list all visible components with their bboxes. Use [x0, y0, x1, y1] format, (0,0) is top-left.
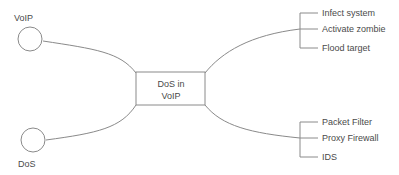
node-dos-circle[interactable] [21, 128, 45, 152]
node-center-label-line2: VoIP [161, 91, 180, 101]
leaf-label-packet-filter: Packet Filter [322, 117, 372, 127]
node-voip[interactable]: VoIP [14, 13, 42, 51]
bracket-spine-attack-steps [300, 13, 318, 48]
edge-dos-to-center [46, 105, 136, 140]
bracket-attack-steps [300, 13, 318, 48]
diagram-canvas: VoIP DoS DoS in VoIP Infect system Activ… [0, 0, 399, 175]
diagram-svg: VoIP DoS DoS in VoIP Infect system Activ… [0, 0, 399, 175]
leaf-label-proxy-firewall: Proxy Firewall [322, 133, 379, 143]
bracket-defenses [300, 122, 318, 157]
edge-center-to-attack-steps [205, 29, 300, 73]
bracket-spine-defenses [300, 122, 318, 157]
leaf-label-activate-zombie: Activate zombie [322, 24, 386, 34]
node-center-label-line1: DoS in [157, 79, 184, 89]
edge-center-to-defenses [205, 105, 300, 138]
node-dos-label: DoS [18, 159, 36, 169]
leaf-label-flood-target: Flood target [322, 43, 371, 53]
edge-voip-to-center [43, 41, 136, 73]
node-center[interactable]: DoS in VoIP [136, 72, 205, 105]
leaf-label-ids: IDS [322, 152, 337, 162]
leaf-label-infect-system: Infect system [322, 8, 375, 18]
node-voip-label: VoIP [14, 13, 33, 23]
node-dos[interactable]: DoS [18, 128, 45, 169]
node-voip-circle[interactable] [18, 27, 42, 51]
